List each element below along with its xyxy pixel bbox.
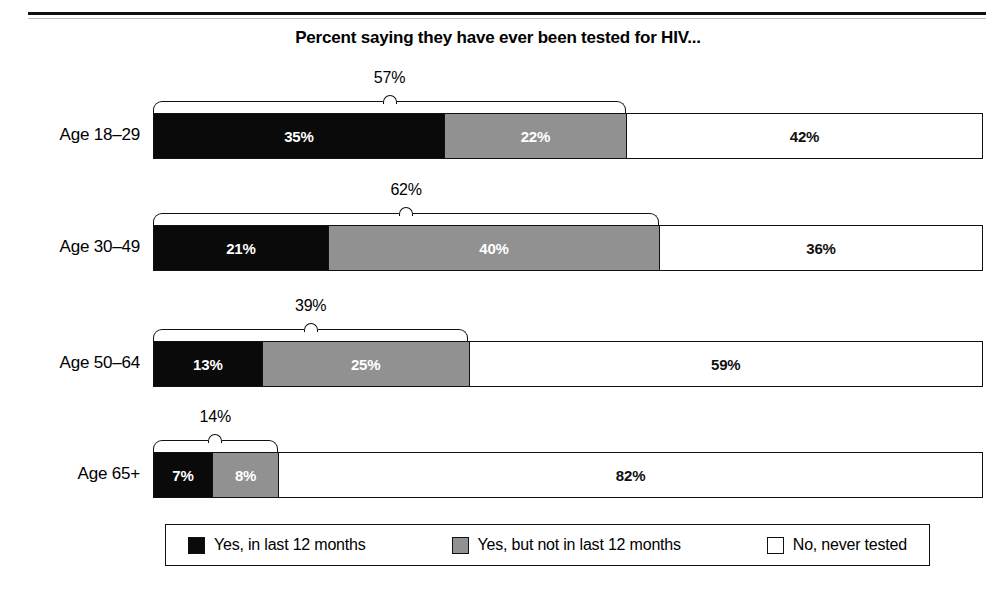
legend-item: Yes, in last 12 months [188, 536, 366, 554]
bar-segment: 35% [154, 114, 444, 158]
bracket-total-label: 62% [390, 181, 421, 199]
total-bracket [153, 211, 659, 225]
row-category-label: Age 18–29 [0, 125, 140, 145]
bar-segment: 7% [154, 453, 212, 497]
bracket-tip [399, 207, 413, 216]
bar-segment: 22% [444, 114, 626, 158]
stacked-bar: 21%40%36% [153, 225, 983, 271]
bar-segment: 25% [262, 342, 469, 386]
bar-segment: 59% [469, 342, 982, 386]
top-divider-rule [28, 12, 986, 15]
bar-segment: 82% [278, 453, 982, 497]
segment-value-label: 21% [226, 240, 255, 257]
legend-swatch [188, 537, 205, 554]
legend-item: Yes, but not in last 12 months [452, 536, 681, 554]
chart-title: Percent saying they have ever been teste… [0, 28, 996, 48]
stacked-bar: 13%25%59% [153, 341, 983, 387]
bracket-total-label: 57% [374, 69, 405, 87]
bar-segment: 36% [659, 226, 982, 270]
bar-segment: 42% [626, 114, 982, 158]
bar-segment: 21% [154, 226, 328, 270]
bracket-tip [208, 434, 222, 443]
segment-value-label: 82% [616, 467, 645, 484]
total-bracket [153, 438, 278, 452]
legend-item: No, never tested [767, 536, 907, 554]
segment-value-label: 36% [806, 240, 835, 257]
bracket-tip [383, 95, 397, 104]
row-category-label: Age 65+ [0, 464, 140, 484]
bar-segment: 13% [154, 342, 262, 386]
chart-legend: Yes, in last 12 monthsYes, but not in la… [165, 524, 930, 566]
bar-segment: 8% [212, 453, 278, 497]
segment-value-label: 22% [521, 128, 550, 145]
stacked-bar: 35%22%42% [153, 113, 983, 159]
bracket-total-label: 39% [295, 297, 326, 315]
row-category-label: Age 30–49 [0, 237, 140, 257]
legend-swatch [767, 537, 784, 554]
legend-label: Yes, but not in last 12 months [478, 536, 681, 554]
segment-value-label: 8% [235, 467, 256, 484]
bar-segment: 40% [328, 226, 659, 270]
legend-swatch [452, 537, 469, 554]
bracket-tip [304, 323, 318, 332]
row-category-label: Age 50–64 [0, 353, 140, 373]
segment-value-label: 42% [790, 128, 819, 145]
segment-value-label: 13% [193, 356, 222, 373]
segment-value-label: 25% [351, 356, 380, 373]
segment-value-label: 35% [284, 128, 313, 145]
chart-figure: Percent saying they have ever been teste… [0, 0, 996, 592]
segment-value-label: 59% [711, 356, 740, 373]
legend-label: Yes, in last 12 months [214, 536, 366, 554]
segment-value-label: 40% [479, 240, 508, 257]
bracket-total-label: 14% [200, 408, 231, 426]
total-bracket [153, 99, 626, 113]
stacked-bar: 7%8%82% [153, 452, 983, 498]
total-bracket [153, 327, 468, 341]
legend-label: No, never tested [793, 536, 907, 554]
segment-value-label: 7% [172, 467, 193, 484]
